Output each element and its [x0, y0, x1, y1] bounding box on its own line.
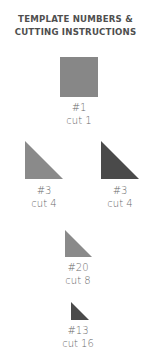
title-line-1: TEMPLATE NUMBERS & — [0, 13, 151, 26]
template-13-triangle-shape — [71, 302, 89, 320]
template-1-label: #1 cut 1 — [40, 101, 118, 127]
template-number: #3 — [80, 184, 151, 197]
template-3-light-label: #3 cut 4 — [4, 184, 84, 210]
template-number: #13 — [38, 324, 118, 337]
cut-instruction: cut 4 — [4, 197, 84, 210]
template-20-triangle-shape — [65, 230, 92, 257]
template-3-dark-label: #3 cut 4 — [80, 184, 151, 210]
template-number: #20 — [38, 261, 118, 274]
template-1-square-shape — [60, 57, 98, 97]
template-13-label: #13 cut 16 — [38, 324, 118, 350]
cut-instruction: cut 1 — [40, 114, 118, 127]
section-title: TEMPLATE NUMBERS & CUTTING INSTRUCTIONS — [0, 13, 151, 38]
cut-instruction: cut 8 — [38, 274, 118, 287]
cut-instruction: cut 16 — [38, 337, 118, 350]
template-number: #3 — [4, 184, 84, 197]
cut-instruction: cut 4 — [80, 197, 151, 210]
template-3-light-triangle-shape — [25, 141, 63, 179]
template-20-label: #20 cut 8 — [38, 261, 118, 287]
template-number: #1 — [40, 101, 118, 114]
template-3-dark-triangle-shape — [101, 141, 139, 179]
title-line-2: CUTTING INSTRUCTIONS — [0, 26, 151, 39]
